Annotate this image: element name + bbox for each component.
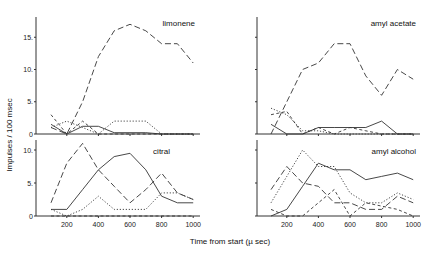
x-tick-label: 800 bbox=[376, 221, 388, 228]
panel-title: amyl acetate bbox=[371, 19, 417, 28]
panel-title: limonene bbox=[163, 19, 196, 28]
x-tick-label: 800 bbox=[156, 221, 168, 228]
y-tick-label: 5. bbox=[27, 98, 33, 105]
series-solid bbox=[271, 163, 413, 216]
x-tick-label: 400 bbox=[313, 221, 325, 228]
axis-lines bbox=[257, 17, 420, 134]
y-tick-label: 0 bbox=[29, 131, 33, 138]
y-axis-label: Impulses / 100 msec bbox=[5, 98, 14, 171]
series-solid bbox=[51, 153, 193, 209]
x-tick-label: 600 bbox=[344, 221, 356, 228]
series-long-dash bbox=[51, 24, 193, 134]
series-short-dash bbox=[271, 190, 413, 216]
series-dotted bbox=[271, 108, 413, 134]
y-tick-label: 10. bbox=[23, 66, 33, 73]
series-dotted bbox=[271, 150, 413, 203]
panel-citral: 200400600800100005.10.citral bbox=[23, 140, 201, 228]
y-tick-label: 5. bbox=[27, 180, 33, 187]
x-tick-label: 1000 bbox=[405, 221, 421, 228]
series-solid bbox=[271, 121, 413, 134]
x-tick-label: 200 bbox=[61, 221, 73, 228]
axis-lines bbox=[36, 17, 200, 134]
series-solid bbox=[51, 124, 193, 134]
x-tick-label: 600 bbox=[124, 221, 136, 228]
chart-figure: Impulses / 100 msec Time from start (µ s… bbox=[0, 0, 438, 258]
panels: 05.10.15.limoneneamyl acetate20040060080… bbox=[23, 17, 421, 228]
panel-title: amyl alcohol bbox=[372, 147, 417, 156]
series-short-dash bbox=[271, 111, 413, 134]
y-tick-label: 0 bbox=[29, 213, 33, 220]
axis-lines bbox=[36, 140, 200, 216]
x-axis-label: Time from start (µ sec) bbox=[190, 237, 271, 246]
x-tick-label: 1000 bbox=[185, 221, 201, 228]
panel-amyl-acetate: amyl acetate bbox=[255, 17, 420, 136]
panel-title: citral bbox=[153, 147, 170, 156]
panel-amyl-alcohol: 2004006008001000amyl alcohol bbox=[255, 140, 421, 228]
x-tick-label: 200 bbox=[281, 221, 293, 228]
y-tick-label: 10. bbox=[23, 147, 33, 154]
series-dotted bbox=[51, 193, 193, 216]
series-long-dash bbox=[51, 143, 193, 202]
x-tick-label: 400 bbox=[93, 221, 105, 228]
y-tick-label: 15. bbox=[23, 34, 33, 41]
panel-limonene: 05.10.15.limonene bbox=[23, 17, 200, 138]
